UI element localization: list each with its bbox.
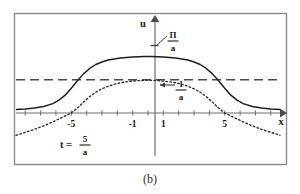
- plot-frame: [15, 14, 287, 165]
- pi-over-a-denominator: a: [171, 43, 176, 53]
- x-axis-tick-label: 5: [222, 119, 227, 129]
- x-axis-tick-label: -1: [129, 119, 137, 129]
- time-parameter-lhs: t =: [60, 139, 72, 150]
- figure-container: u x -5-115 Π a 1 a t = 5 a (b): [0, 0, 300, 194]
- figure-caption: (b): [0, 172, 300, 187]
- time-parameter-numerator: 5: [83, 134, 88, 144]
- time-parameter-denominator: a: [83, 147, 88, 157]
- one-over-a-denominator: a: [179, 92, 184, 102]
- x-axis-tick-label: -5: [67, 119, 75, 129]
- x-axis-label: x: [278, 116, 284, 127]
- plot-canvas: u x -5-115 Π a 1 a t = 5 a: [0, 0, 300, 172]
- y-axis-label: u: [140, 18, 146, 29]
- one-over-a-numerator: 1: [179, 79, 184, 89]
- x-axis-tick-label: 1: [161, 119, 166, 129]
- pi-over-a-numerator: Π: [169, 30, 176, 40]
